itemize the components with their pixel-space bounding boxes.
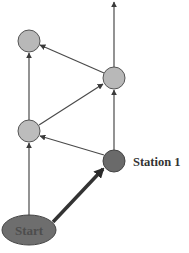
edge-start-to-station1: [53, 169, 103, 222]
node-station1: [103, 150, 125, 172]
station-graph-diagram: Station 1 Start: [0, 0, 189, 253]
edge-right-mid-to-left-top: [40, 45, 104, 73]
label-start: Start: [15, 223, 44, 238]
node-left-mid: [18, 120, 40, 142]
edge-station1-to-left-mid: [40, 136, 104, 155]
node-left-top: [18, 30, 40, 52]
node-right-mid: [103, 67, 125, 89]
edges: [29, 2, 114, 222]
edge-left-mid-to-right-mid: [39, 84, 103, 125]
label-station1: Station 1: [133, 155, 181, 169]
